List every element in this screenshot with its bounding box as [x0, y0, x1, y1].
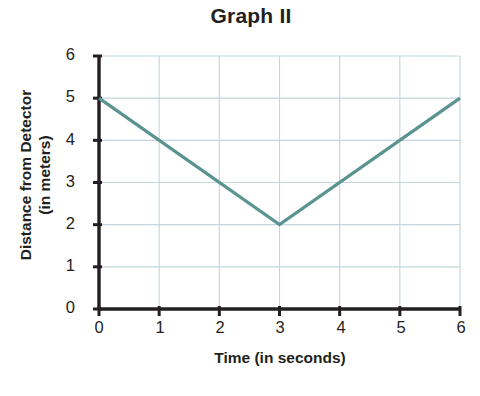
tick-marks	[93, 56, 460, 316]
plot-area	[0, 0, 480, 396]
chart-figure: Graph II Distance from Detector (in mete…	[0, 0, 480, 396]
gridlines	[99, 56, 460, 309]
